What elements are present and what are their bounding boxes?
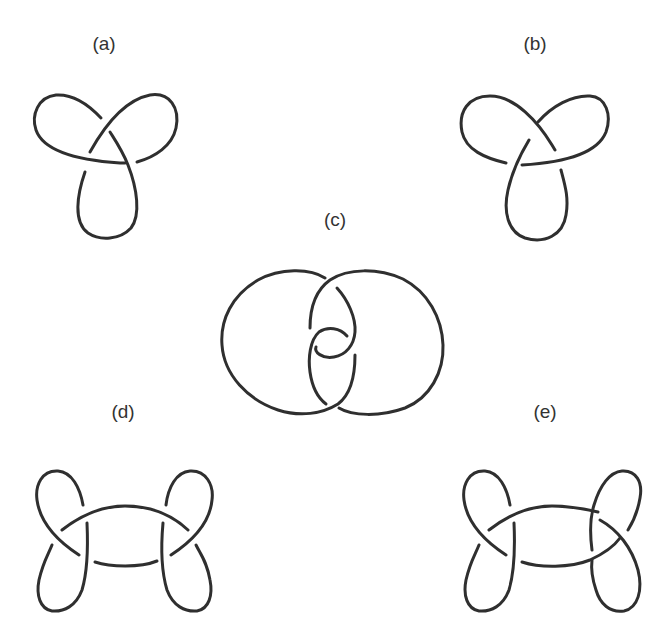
panel-label-d: (d) <box>111 401 134 422</box>
panel-b: (b) <box>461 33 608 240</box>
knot-c-strand-1 <box>222 271 355 414</box>
knot-d-strand-4 <box>95 561 157 566</box>
knot-e <box>464 471 641 611</box>
knot-c-strand-2 <box>310 271 443 415</box>
knot-b <box>461 96 608 240</box>
knot-d-strand-5 <box>166 471 212 555</box>
knot-e-strand-1 <box>464 471 510 555</box>
knot-e-strand-2 <box>489 506 598 530</box>
knot-c-strand-4 <box>309 329 347 404</box>
knot-c <box>222 271 443 415</box>
knot-a-strand-2 <box>90 95 177 162</box>
knot-a-strand-3 <box>78 132 137 238</box>
knot-figure: (a) (b) (c) <box>0 0 670 642</box>
knot-d-strand-1 <box>37 471 83 555</box>
knot-b-strand-2 <box>522 96 608 165</box>
knot-c-strand-3 <box>316 288 355 357</box>
knot-e-strand-6 <box>592 520 640 611</box>
knot-e-strand-4 <box>522 538 620 566</box>
knot-a <box>34 95 176 239</box>
knot-d <box>37 471 213 611</box>
knot-b-strand-1 <box>461 96 555 163</box>
knot-a-strand-1 <box>34 95 125 163</box>
knot-e-strand-3 <box>465 523 514 611</box>
knot-e-strand-5 <box>591 471 641 550</box>
panel-label-b: (b) <box>523 33 546 54</box>
knot-d-strand-2 <box>62 506 188 530</box>
knot-b-strand-3 <box>506 140 567 240</box>
panel-d: (d) <box>37 401 213 611</box>
panel-label-a: (a) <box>92 33 115 54</box>
knot-d-strand-6 <box>162 523 211 611</box>
panel-c: (c) <box>222 209 443 414</box>
panel-e: (e) <box>464 401 641 611</box>
panel-label-c: (c) <box>324 209 346 230</box>
knot-d-strand-3 <box>38 523 87 611</box>
panel-label-e: (e) <box>533 401 556 422</box>
panel-a: (a) <box>34 33 176 238</box>
